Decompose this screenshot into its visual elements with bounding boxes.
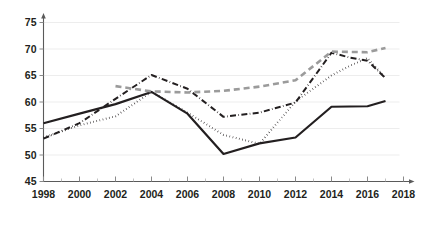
y-tick-labels: 45505560657075 bbox=[25, 16, 37, 187]
x-tick-label: 2002 bbox=[104, 188, 128, 200]
x-tick-label: 2018 bbox=[392, 188, 416, 200]
x-tick-label: 2006 bbox=[176, 188, 200, 200]
y-tick-label: 60 bbox=[25, 96, 37, 108]
y-tick-label: 45 bbox=[25, 175, 37, 187]
y-tick-label: 65 bbox=[25, 69, 37, 81]
x-tick-label: 2016 bbox=[356, 188, 380, 200]
series-line-1 bbox=[44, 92, 386, 154]
x-axis-arrow bbox=[409, 179, 415, 184]
y-tick-label: 50 bbox=[25, 149, 37, 161]
x-axis bbox=[44, 177, 415, 184]
line-chart: 45505560657075 1998200020022004200620082… bbox=[0, 0, 426, 233]
y-tick-label: 55 bbox=[25, 122, 37, 134]
x-tick-label: 2010 bbox=[248, 188, 272, 200]
x-tick-labels: 1998200020022004200620082010201220142016… bbox=[32, 188, 416, 200]
x-tick-label: 2012 bbox=[284, 188, 308, 200]
series-line-4 bbox=[116, 48, 386, 93]
series-line-3 bbox=[44, 58, 386, 144]
x-tick-label: 2000 bbox=[68, 188, 92, 200]
x-tick-label: 2004 bbox=[140, 188, 164, 200]
x-tick-label: 1998 bbox=[32, 188, 56, 200]
gridlines bbox=[44, 23, 400, 156]
y-tick-label: 70 bbox=[25, 43, 37, 55]
x-tick-label: 2014 bbox=[320, 188, 344, 200]
series-line-2 bbox=[44, 53, 386, 139]
y-tick-label: 75 bbox=[25, 16, 37, 28]
y-axis-arrow bbox=[41, 13, 46, 19]
data-series bbox=[44, 48, 386, 154]
chart-canvas: 45505560657075 1998200020022004200620082… bbox=[0, 0, 426, 233]
y-axis bbox=[40, 13, 46, 182]
x-tick-label: 2008 bbox=[212, 188, 236, 200]
